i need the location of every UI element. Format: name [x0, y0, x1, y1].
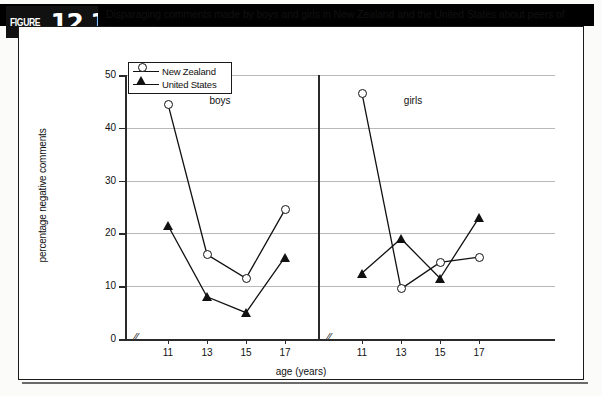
data-point-girls-new-zealand-age-17 [475, 253, 484, 262]
data-point-girls-new-zealand-age-15 [436, 258, 445, 267]
data-point-girls-united-states-age-17 [474, 213, 484, 222]
chart-legend: New Zealand United States [128, 62, 232, 94]
data-point-boys-united-states-age-17 [280, 253, 290, 262]
legend-label-new-zealand: New Zealand [162, 66, 216, 77]
data-point-girls-new-zealand-age-11 [358, 89, 367, 98]
series-lines [0, 0, 602, 396]
data-point-boys-united-states-age-13 [202, 292, 212, 301]
data-point-girls-new-zealand-age-13 [397, 284, 406, 293]
legend-label-united-states: United States [162, 79, 216, 90]
legend-item-united-states: United States [133, 78, 227, 91]
data-point-boys-new-zealand-age-15 [242, 274, 251, 283]
data-point-boys-new-zealand-age-13 [203, 250, 212, 259]
line-girls-united-states [362, 218, 479, 279]
data-point-boys-united-states-age-11 [163, 221, 173, 230]
chart-plot-area: 01020304050 percentage negative comments… [0, 0, 602, 396]
line-boys-united-states [168, 225, 285, 312]
line-boys-new-zealand [168, 104, 285, 278]
data-point-boys-new-zealand-age-11 [164, 100, 173, 109]
legend-item-new-zealand: New Zealand [133, 65, 227, 78]
data-point-girls-united-states-age-13 [396, 234, 406, 243]
figure-page: FIGURE 12.15 Disparaging comments made b… [0, 0, 602, 396]
data-point-boys-new-zealand-age-17 [281, 205, 290, 214]
filled-triangle-icon [133, 79, 159, 90]
data-point-girls-united-states-age-11 [357, 269, 367, 278]
line-girls-new-zealand [362, 93, 479, 288]
data-point-boys-united-states-age-15 [241, 308, 251, 317]
data-point-girls-united-states-age-15 [435, 274, 445, 283]
